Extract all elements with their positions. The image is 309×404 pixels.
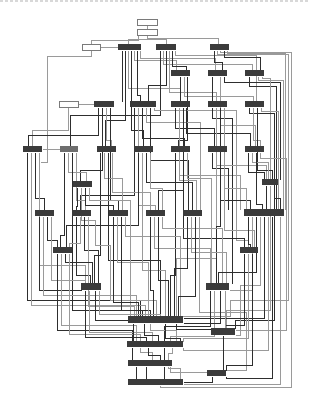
- diagram-node-n3[interactable]: [83, 45, 101, 51]
- node-box[interactable]: [244, 209, 284, 216]
- edge-connector: [141, 348, 153, 361]
- diagram-node-n13[interactable]: [171, 101, 190, 107]
- edge-connector: [48, 217, 58, 248]
- node-box[interactable]: [109, 210, 128, 216]
- diagram-node-n30[interactable]: [244, 209, 284, 216]
- node-box[interactable]: [35, 210, 54, 216]
- node-box[interactable]: [128, 316, 183, 323]
- node-box[interactable]: [208, 70, 227, 76]
- edge-connector: [263, 77, 271, 180]
- edge-connector: [275, 186, 281, 210]
- node-box[interactable]: [60, 146, 78, 152]
- diagram-node-n17[interactable]: [60, 146, 78, 152]
- node-box[interactable]: [245, 146, 264, 152]
- edge-connector: [147, 153, 193, 211]
- node-box[interactable]: [81, 283, 101, 290]
- diagram-node-n4[interactable]: [118, 44, 141, 50]
- diagram-node-n21[interactable]: [208, 146, 227, 152]
- edge-connector: [61, 153, 65, 248]
- node-box[interactable]: [171, 101, 190, 107]
- node-box[interactable]: [262, 179, 278, 185]
- diagram-node-n29[interactable]: [183, 210, 202, 216]
- diagram-node-n31[interactable]: [53, 247, 72, 253]
- edge-connector: [70, 217, 81, 248]
- node-box[interactable]: [210, 44, 229, 50]
- diagram-node-n18[interactable]: [97, 146, 116, 152]
- diagram-node-n10[interactable]: [60, 102, 79, 108]
- diagram-node-n37[interactable]: [127, 341, 183, 347]
- diagram-node-n32[interactable]: [240, 247, 258, 253]
- node-box[interactable]: [118, 44, 141, 50]
- node-box[interactable]: [171, 70, 190, 76]
- edge-connector: [151, 153, 163, 211]
- diagram-node-n7[interactable]: [171, 70, 190, 76]
- diagram-node-n5[interactable]: [156, 44, 176, 50]
- edge-connector: [227, 217, 273, 379]
- diagram-node-n9[interactable]: [245, 70, 264, 76]
- node-box[interactable]: [138, 20, 158, 26]
- node-box[interactable]: [128, 379, 183, 385]
- node-box[interactable]: [128, 360, 172, 366]
- diagram-node-n35[interactable]: [128, 316, 183, 323]
- node-box[interactable]: [208, 101, 227, 107]
- diagram-node-n11[interactable]: [94, 101, 114, 107]
- node-box[interactable]: [138, 30, 158, 36]
- diagram-node-n33[interactable]: [81, 283, 101, 290]
- node-box[interactable]: [146, 210, 165, 216]
- diagram-node-n19[interactable]: [134, 146, 153, 152]
- edge-connector: [81, 108, 135, 211]
- node-box[interactable]: [211, 328, 235, 335]
- diagram-node-n1[interactable]: [138, 20, 158, 26]
- node-box[interactable]: [127, 341, 183, 347]
- node-box[interactable]: [206, 283, 229, 290]
- node-box[interactable]: [53, 247, 72, 253]
- diagram-node-n14[interactable]: [208, 101, 227, 107]
- diagram-node-n16[interactable]: [23, 146, 42, 152]
- diagram-node-n36[interactable]: [211, 328, 235, 335]
- node-box[interactable]: [156, 44, 176, 50]
- diagram-node-n34[interactable]: [206, 283, 229, 290]
- node-box[interactable]: [94, 101, 114, 107]
- diagram-node-n28[interactable]: [146, 210, 165, 216]
- diagram-node-n38[interactable]: [128, 360, 172, 366]
- edge-layer: [28, 26, 292, 388]
- diagram-node-n24[interactable]: [262, 179, 278, 185]
- node-box[interactable]: [134, 146, 153, 152]
- diagram-node-n20[interactable]: [171, 146, 190, 152]
- diagram-node-n25[interactable]: [35, 210, 54, 216]
- diagram-node-n15[interactable]: [245, 101, 264, 107]
- node-box[interactable]: [23, 146, 42, 152]
- diagram-node-n12[interactable]: [130, 101, 156, 107]
- diagram-node-n26[interactable]: [72, 210, 91, 216]
- edge-connector: [29, 108, 99, 147]
- edge-connector: [151, 217, 154, 317]
- node-box[interactable]: [72, 210, 91, 216]
- edge-connector: [169, 348, 173, 361]
- edge-connector: [118, 217, 149, 317]
- node-box[interactable]: [207, 370, 226, 376]
- node-box[interactable]: [97, 146, 116, 152]
- node-box[interactable]: [171, 146, 190, 152]
- diagram-node-n22[interactable]: [245, 146, 264, 152]
- diagram-node-n6[interactable]: [210, 44, 229, 50]
- edge-connector: [71, 51, 161, 147]
- node-box[interactable]: [208, 146, 227, 152]
- diagram-node-n27[interactable]: [109, 210, 128, 216]
- edge-connector: [171, 367, 208, 373]
- node-box[interactable]: [245, 70, 264, 76]
- node-box[interactable]: [130, 101, 156, 107]
- node-box[interactable]: [240, 247, 258, 253]
- node-box[interactable]: [183, 210, 202, 216]
- diagram-node-n39[interactable]: [207, 370, 226, 376]
- diagram-node-n23[interactable]: [73, 181, 92, 187]
- diagram-canvas: [0, 0, 309, 404]
- node-box[interactable]: [245, 101, 264, 107]
- diagram-node-n2[interactable]: [138, 30, 158, 36]
- node-box[interactable]: [60, 102, 79, 108]
- edge-connector: [33, 108, 69, 147]
- edge-connector: [163, 217, 223, 284]
- node-box[interactable]: [83, 45, 101, 51]
- diagram-node-n8[interactable]: [208, 70, 227, 76]
- diagram-node-n40[interactable]: [128, 379, 183, 385]
- node-box[interactable]: [73, 181, 92, 187]
